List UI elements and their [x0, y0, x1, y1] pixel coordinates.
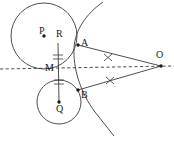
arc-through-a-b — [74, 2, 114, 136]
dashed-axis-line — [0, 66, 174, 69]
point-label-o: O — [156, 50, 163, 60]
tick-mark-oa — [104, 54, 112, 61]
point-label-p: P — [39, 26, 45, 36]
point-dot-b — [76, 88, 79, 91]
point-label-b: B — [81, 90, 88, 100]
point-label-a: A — [81, 38, 88, 48]
diagram-canvas — [0, 0, 174, 141]
point-dot-a — [76, 43, 79, 46]
geometry-diagram: P R A M Q B O — [0, 0, 174, 141]
segment-rq — [58, 43, 59, 102]
tick-mark-ob — [106, 77, 114, 84]
point-dot-o — [159, 64, 162, 67]
point-label-m: M — [45, 63, 54, 73]
segment-oa — [78, 45, 161, 66]
point-label-q: Q — [56, 104, 63, 114]
point-label-r: R — [56, 29, 63, 39]
segment-ob — [78, 66, 161, 90]
